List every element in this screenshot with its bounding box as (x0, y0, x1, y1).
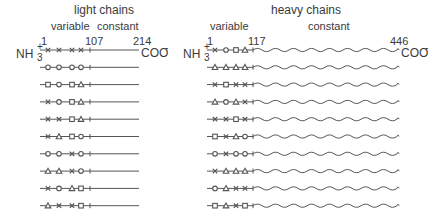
light-chain-row (40, 203, 139, 208)
heavy-chain-row (207, 117, 399, 122)
triangle-icon (242, 168, 248, 173)
triangle-icon (78, 99, 84, 104)
light-chain-row (40, 116, 139, 121)
triangle-icon (233, 134, 239, 139)
heavy-chain-row (207, 134, 399, 139)
circle-icon (70, 65, 75, 70)
circle-icon (234, 152, 239, 157)
light-chain-row (40, 186, 139, 191)
triangle-icon (233, 99, 239, 104)
circle-icon (57, 82, 62, 87)
circle-icon (46, 152, 51, 157)
triangle-icon (233, 65, 239, 70)
square-icon (79, 203, 84, 208)
circle-icon (213, 152, 218, 157)
square-icon (213, 134, 218, 139)
square-icon (70, 82, 75, 87)
triangle-icon (223, 203, 229, 208)
antibody-chain-diagram (0, 0, 437, 216)
triangle-icon (212, 99, 218, 104)
heavy-chain-row (207, 65, 399, 70)
circle-icon (224, 100, 229, 105)
triangle-icon (56, 168, 62, 173)
circle-icon (46, 65, 51, 70)
square-icon (224, 82, 229, 87)
triangle-icon (233, 168, 239, 173)
circle-icon (57, 100, 62, 105)
heavy-chain-row (207, 82, 399, 87)
light-chain-row (40, 134, 139, 139)
circle-icon (79, 134, 84, 139)
triangle-icon (242, 47, 248, 52)
heavy-chain-row (207, 186, 399, 191)
triangle-icon (45, 203, 51, 208)
circle-icon (243, 152, 248, 157)
square-icon (70, 134, 75, 139)
square-icon (46, 82, 51, 87)
square-icon (234, 48, 239, 53)
triangle-icon (223, 186, 229, 191)
light-chain-row (40, 48, 139, 53)
triangle-icon (223, 65, 229, 70)
circle-icon (213, 186, 218, 191)
circle-icon (243, 134, 248, 139)
circle-icon (57, 186, 62, 191)
light-chain-row (40, 82, 139, 87)
circle-icon (79, 169, 84, 174)
square-icon (234, 117, 239, 122)
heavy-chain-row (207, 203, 399, 208)
square-icon (70, 100, 75, 105)
circle-icon (79, 65, 84, 70)
circle-icon (57, 65, 62, 70)
triangle-icon (45, 168, 51, 173)
light-chain-row (40, 65, 139, 70)
circle-icon (57, 152, 62, 157)
square-icon (213, 203, 218, 208)
circle-icon (224, 48, 229, 53)
heavy-chain-row (207, 47, 399, 52)
triangle-icon (78, 116, 84, 121)
circle-icon (79, 152, 84, 157)
square-icon (70, 117, 75, 122)
light-chain-row (40, 168, 139, 173)
triangle-icon (69, 186, 75, 191)
heavy-chain-row (207, 151, 399, 156)
triangle-icon (78, 82, 84, 87)
triangle-icon (56, 134, 62, 139)
square-icon (79, 186, 84, 191)
triangle-icon (223, 168, 229, 173)
square-icon (243, 203, 248, 208)
light-chain-row (40, 99, 139, 104)
heavy-chain-row (207, 99, 399, 104)
triangle-icon (212, 65, 218, 70)
light-chain-row (40, 151, 139, 156)
heavy-chain-row (207, 168, 399, 173)
triangle-icon (242, 65, 248, 70)
